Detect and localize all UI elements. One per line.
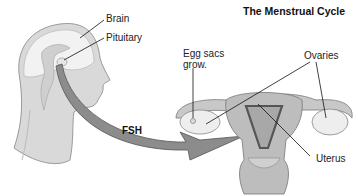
label-ovaries: Ovaries — [304, 50, 338, 61]
label-egg-sacs-line1: Egg sacs — [183, 48, 224, 59]
label-uterus: Uterus — [316, 153, 345, 164]
label-egg-sacs-line2: grow. — [183, 59, 207, 70]
label-pituitary: Pituitary — [106, 32, 142, 43]
head-illustration — [14, 23, 110, 163]
label-fsh: FSH — [122, 125, 142, 136]
label-brain: Brain — [106, 13, 129, 24]
diagram-illustration — [0, 0, 358, 196]
menstrual-cycle-diagram: The Menstrual Cycle Brain Pituitary Egg … — [0, 0, 358, 196]
diagram-title: The Menstrual Cycle — [243, 5, 345, 17]
